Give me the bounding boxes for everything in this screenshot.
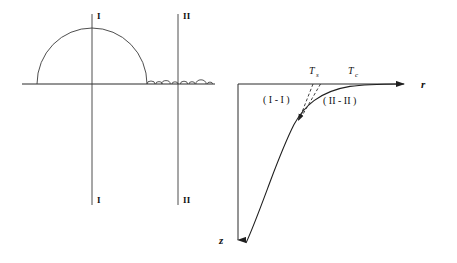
marker-Ts-subscript: s (316, 71, 319, 79)
marker-Ts-base: T (309, 65, 316, 76)
section-label-II-bottom: II (183, 195, 191, 205)
convergence-arrowhead (299, 109, 305, 120)
temperature-depth-plot: r z T s T c ( I - I ) ( II - II ) (218, 65, 426, 246)
figure-root: I I II II r z T (0, 0, 457, 263)
section-label-I-top: I (97, 11, 101, 21)
r-axis-label: r (421, 78, 426, 90)
section-label-I-bottom: I (97, 195, 101, 205)
dashed-line-Ts-right (303, 84, 321, 115)
marker-Tc-subscript: c (355, 71, 359, 79)
section-line-II: II II (178, 11, 191, 205)
section-label-II-top: II (183, 11, 191, 21)
small-bump (196, 80, 206, 84)
region-label-I-I: ( I - I ) (263, 94, 290, 106)
marker-Tc-base: T (348, 65, 355, 76)
temperature-profile-curve (246, 84, 400, 243)
marker-Tc: T c (348, 65, 359, 79)
small-bump (162, 81, 170, 84)
diagram-canvas: I I II II r z T (0, 0, 457, 263)
z-axis-label: z (218, 234, 224, 246)
small-bump-group (147, 80, 213, 84)
ground-surface-profile: I I II II (22, 11, 215, 205)
region-label-II-II: ( II - II ) (323, 95, 356, 107)
marker-Ts: T s (309, 65, 319, 79)
section-line-I: I I (92, 11, 101, 205)
